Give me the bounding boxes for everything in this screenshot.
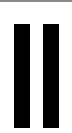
pause-button-label: Pause (0, 2, 1, 3)
pause-bar-left (14, 24, 30, 128)
pause-button[interactable]: Pause (0, 2, 72, 133)
pause-bar-right (43, 24, 59, 128)
